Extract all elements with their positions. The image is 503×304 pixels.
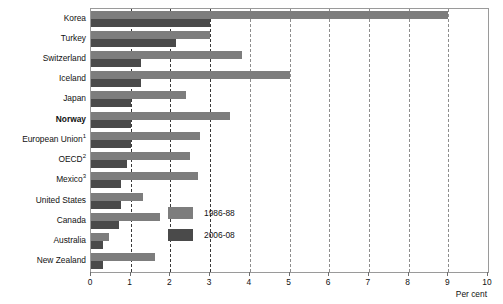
- bar: [91, 120, 131, 128]
- x-tick-mark: [487, 272, 488, 276]
- bar: [91, 71, 290, 79]
- x-tick-mark: [408, 272, 409, 276]
- x-tick-mark: [169, 272, 170, 276]
- bar: [91, 201, 121, 209]
- bar: [91, 99, 131, 107]
- category-label-norway: Norway: [0, 114, 86, 124]
- category-label-iceland: Iceland: [0, 73, 86, 83]
- x-tick-label: 1: [127, 277, 132, 287]
- category-label-oecd: OECD2: [0, 154, 86, 164]
- bar: [91, 193, 143, 201]
- x-tick-label: 7: [366, 277, 371, 287]
- x-axis-title: Per cent: [456, 289, 487, 299]
- x-tick-label: 5: [286, 277, 291, 287]
- category-label-text: Japan: [63, 93, 86, 103]
- bar: [91, 253, 155, 261]
- legend-swatch: [168, 207, 193, 219]
- bar: [91, 241, 103, 249]
- plot-area: [90, 8, 489, 273]
- x-tick-mark: [130, 272, 131, 276]
- category-label-text: Switzerland: [43, 53, 86, 63]
- category-label-canada: Canada: [0, 215, 86, 225]
- category-axis: KoreaTurkeySwitzerlandIcelandJapanNorway…: [0, 8, 86, 271]
- bar: [91, 233, 109, 241]
- footnote-marker: 1: [83, 133, 86, 139]
- category-label-text: Australia: [53, 235, 86, 245]
- bar: [91, 19, 210, 27]
- category-label-text: OECD: [58, 154, 82, 164]
- bar: [91, 160, 127, 168]
- bar: [91, 11, 448, 19]
- legend-label: 2006-08: [204, 230, 235, 240]
- category-label-text: Mexico: [56, 174, 83, 184]
- bar: [91, 213, 160, 221]
- bar: [91, 59, 141, 67]
- x-tick-mark: [90, 272, 91, 276]
- x-tick-label: 4: [246, 277, 251, 287]
- category-label-mexico: Mexico3: [0, 174, 86, 184]
- bar: [91, 152, 190, 160]
- category-label-turkey: Turkey: [0, 33, 86, 43]
- gridline-5: [290, 9, 291, 272]
- category-label-text: Korea: [64, 13, 86, 23]
- category-label-new-zealand: New Zealand: [0, 255, 86, 265]
- legend-label: 1986-88: [204, 208, 235, 218]
- x-tick-label: 9: [445, 277, 450, 287]
- bar: [91, 79, 141, 87]
- legend-item-1986-88: 1986-88: [168, 206, 235, 219]
- bar: [91, 180, 121, 188]
- gridline-9: [448, 9, 449, 272]
- category-label-text: United States: [36, 195, 86, 205]
- category-label-text: Iceland: [59, 73, 86, 83]
- bar-chart: KoreaTurkeySwitzerlandIcelandJapanNorway…: [0, 0, 503, 304]
- footnote-marker: 3: [83, 174, 86, 180]
- x-tick-label: 3: [207, 277, 212, 287]
- category-label-european-union: European Union1: [0, 134, 86, 144]
- x-tick-label: 6: [326, 277, 331, 287]
- bar: [91, 51, 242, 59]
- plot-inner: [91, 9, 488, 272]
- x-tick-mark: [328, 272, 329, 276]
- x-tick-mark: [447, 272, 448, 276]
- gridline-8: [409, 9, 410, 272]
- gridline-1: [131, 9, 132, 272]
- x-tick-label: 10: [482, 277, 491, 287]
- x-tick-label: 2: [167, 277, 172, 287]
- bar: [91, 172, 198, 180]
- category-label-switzerland: Switzerland: [0, 53, 86, 63]
- bar: [91, 31, 210, 39]
- category-label-korea: Korea: [0, 13, 86, 23]
- category-label-united-states: United States: [0, 195, 86, 205]
- bar: [91, 39, 176, 47]
- gridline-6: [329, 9, 330, 272]
- legend-item-2006-08: 2006-08: [168, 228, 235, 241]
- legend-swatch: [168, 229, 193, 241]
- gridline-7: [369, 9, 370, 272]
- category-label-text: New Zealand: [37, 255, 86, 265]
- category-label-text: European Union: [22, 134, 83, 144]
- bar: [91, 112, 230, 120]
- category-label-text: Canada: [57, 215, 86, 225]
- footnote-marker: 2: [83, 153, 86, 159]
- bar: [91, 91, 186, 99]
- category-label-text: Norway: [56, 114, 86, 124]
- x-tick-mark: [368, 272, 369, 276]
- x-tick-mark: [249, 272, 250, 276]
- x-axis: Per cent 012345678910: [90, 272, 487, 304]
- category-label-text: Turkey: [61, 33, 86, 43]
- gridline-4: [250, 9, 251, 272]
- category-label-australia: Australia: [0, 235, 86, 245]
- bar: [91, 261, 103, 269]
- category-label-japan: Japan: [0, 93, 86, 103]
- bar: [91, 132, 200, 140]
- x-tick-label: 0: [88, 277, 93, 287]
- x-tick-label: 8: [405, 277, 410, 287]
- bar: [91, 140, 131, 148]
- x-tick-mark: [289, 272, 290, 276]
- bar: [91, 221, 119, 229]
- x-tick-mark: [209, 272, 210, 276]
